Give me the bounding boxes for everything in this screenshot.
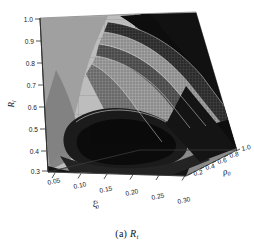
x-axis-label-subscript: 0 [95,204,99,210]
y-tick-label: 0.2 [193,168,204,177]
z-tick-label: 0.4 [30,148,39,155]
y-tick-label: 0.4 [205,162,216,171]
caption-subscript: i [136,233,138,241]
x-tick-label: 0.10 [73,180,87,190]
svg-text:Ri: Ri [6,100,17,109]
svg-text:ξs0: ξs0 [91,198,99,211]
z-tick-label: 0.8 [26,60,35,67]
y-tick-label: 1.0 [241,143,252,152]
y-tick-label: 0.6 [217,156,228,165]
x-tick-label: 0.15 [99,184,113,194]
z-tick-label: 0.5 [29,126,38,133]
z-axis-label-subscript: i [11,100,17,102]
surface-mesh [40,12,237,176]
x-tick-label: 0.05 [47,176,61,186]
y-axis-label: ρ0 [221,165,231,178]
z-tick-label: 0.3 [31,168,40,175]
x-axis: 0.05 0.10 0.15 0.20 0.25 0.30 ξs0 [47,173,191,211]
x-tick-label: 0.30 [177,195,191,205]
x-tick-label: 0.20 [125,187,139,197]
z-tick-label: 0.6 [28,104,37,111]
x-axis-label: ξs0 [91,198,99,211]
svg-text:ρ0: ρ0 [221,165,231,178]
surface-plot-canvas: 1.0 0.9 0.8 0.7 0.6 0.5 0.4 0.3 Ri [0,0,254,245]
z-tick-label: 0.9 [25,38,34,45]
caption-prefix: (a) [115,228,127,239]
z-tick-label: 0.7 [27,82,36,89]
z-axis-label: Ri [6,100,17,109]
z-tick-label: 1.0 [24,16,33,23]
x-tick-label: 0.25 [151,191,165,201]
y-axis-label-subscript: 0 [227,170,231,176]
figure-caption: (a) Ri [0,228,254,241]
y-tick-label: 0.8 [229,150,240,159]
surface-plot-figure: 1.0 0.9 0.8 0.7 0.6 0.5 0.4 0.3 Ri [0,0,254,245]
